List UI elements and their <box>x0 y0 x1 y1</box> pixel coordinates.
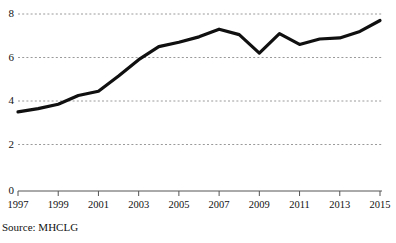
y-axis-tick-label: 2 <box>0 139 14 150</box>
x-axis-tick-label: 2003 <box>119 199 159 210</box>
gridlines-group <box>18 14 382 145</box>
x-axis-tick-label: 2001 <box>78 199 118 210</box>
line-chart: 02468 1997199920012003200520072009201120… <box>0 0 396 243</box>
x-axis-tick-label: 2005 <box>159 199 199 210</box>
y-axis-tick-label: 4 <box>0 95 14 106</box>
y-axis-tick-label: 0 <box>0 185 14 196</box>
x-axis-ticks-group <box>18 191 380 196</box>
source-note: Source: MHCLG <box>2 221 78 234</box>
y-axis-tick-label: 6 <box>0 52 14 63</box>
x-axis-tick-label: 2007 <box>199 199 239 210</box>
x-axis-tick-label: 2011 <box>280 199 320 210</box>
data-series-line <box>18 21 380 112</box>
x-axis-tick-label: 2013 <box>320 199 360 210</box>
x-axis-tick-label: 2009 <box>239 199 279 210</box>
x-axis-tick-label: 1999 <box>38 199 78 210</box>
x-axis-tick-label: 1997 <box>0 199 38 210</box>
x-axis-tick-label: 2015 <box>360 199 396 210</box>
y-axis-tick-label: 8 <box>0 8 14 19</box>
